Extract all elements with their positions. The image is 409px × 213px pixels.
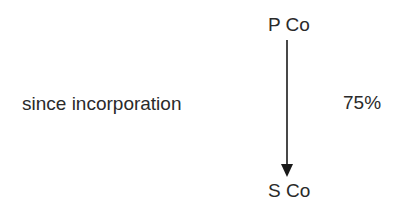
relationship-note: since incorporation bbox=[22, 94, 181, 113]
ownership-percentage: 75% bbox=[343, 93, 381, 112]
subsidiary-company-label: S Co bbox=[268, 181, 310, 200]
arrowhead-icon bbox=[281, 164, 293, 177]
